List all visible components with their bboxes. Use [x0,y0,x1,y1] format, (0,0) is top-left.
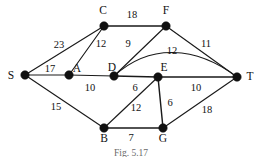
node-label-E: E [160,61,167,73]
node-G[interactable] [159,124,167,132]
node-label-A: A [73,62,82,74]
edge-weight-D-T: 12 [167,45,178,56]
node-label-B: B [100,132,108,144]
edge-F-D [114,26,166,76]
edge-weight-F-D: 9 [125,38,130,49]
figure-caption: Fig. 5.17 [114,148,148,157]
node-C[interactable] [100,22,108,30]
node-label-S: S [8,69,14,81]
edge-weight-B-G: 7 [128,132,133,143]
edge-weight-S-B: 15 [51,101,62,112]
edge-weight-D-E: 6 [132,82,137,93]
edge-weight-C-A: 12 [96,38,107,49]
edge-weight-S-C: 23 [54,39,65,50]
edge-A-D [69,75,114,76]
node-label-G: G [159,132,167,144]
edge-weight-F-T: 11 [201,38,211,49]
edge-D-E [114,76,158,77]
node-labels-group: S A C D F E T B G [8,4,254,144]
node-B[interactable] [100,124,108,132]
node-E[interactable] [154,73,162,81]
edge-weight-E-G: 6 [167,97,172,108]
node-S[interactable] [21,71,29,79]
network-graph-canvas: S A C D F E T B G 23 17 15 18 12 10 9 11… [0,0,262,157]
edge-weight-C-F: 18 [127,9,138,20]
edge-S-C [25,26,104,75]
node-D[interactable] [110,72,118,80]
edge-D-T-curved [114,52,237,77]
node-label-F: F [163,4,169,16]
node-label-C: C [99,4,107,16]
edge-weight-G-T: 18 [202,104,213,115]
node-label-T: T [246,70,253,82]
edge-weight-A-D: 10 [85,82,96,93]
edge-weight-E-T: 10 [191,82,202,93]
edge-E-G [158,77,163,128]
graph-figure: S A C D F E T B G 23 17 15 18 12 10 9 11… [0,0,262,157]
node-F[interactable] [162,22,170,30]
edge-weight-E-B: 12 [131,102,142,113]
node-label-D: D [108,61,116,73]
edge-weight-S-A: 17 [45,63,56,74]
node-T[interactable] [233,73,241,81]
